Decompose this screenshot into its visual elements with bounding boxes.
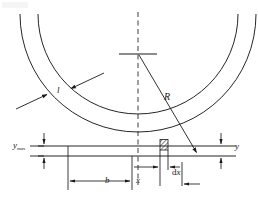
- curved-beam-diagram: ymax y b x dx R l: [0, 0, 258, 203]
- radius-leader-line: [139, 55, 197, 153]
- b-dimension-label: b: [105, 176, 110, 185]
- x-dimension-label: x: [136, 176, 140, 185]
- maximum-deflection-label: ymax: [13, 141, 25, 150]
- differential-strip: [160, 140, 168, 151]
- thickness-leader-inner: [71, 73, 104, 89]
- thickness-label: l: [57, 86, 60, 95]
- diagram-canvas: [0, 0, 258, 203]
- y-axis-label: y: [235, 142, 239, 151]
- dx-dimension-label: dx: [172, 168, 181, 177]
- radius-label: R: [164, 92, 170, 102]
- thickness-leader-outer: [16, 95, 47, 110]
